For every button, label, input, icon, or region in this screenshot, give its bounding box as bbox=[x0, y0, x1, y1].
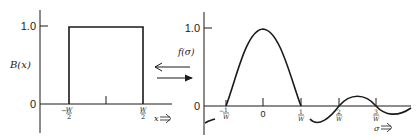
left-x-arrow-icon bbox=[160, 114, 171, 123]
sinc-negative-lobe-left bbox=[205, 119, 215, 123]
sinc-negative-lobe-1 bbox=[310, 106, 339, 122]
right-x-label: σ bbox=[374, 124, 380, 133]
tick-label-neg-1w-num: 1 bbox=[224, 106, 228, 113]
sinc-main-lobe bbox=[226, 29, 301, 106]
left-x-label: x bbox=[154, 114, 159, 123]
left-plot: 1.0 0 B(x) − W 2 W 2 x bbox=[9, 10, 172, 133]
sinc-positive-lobe bbox=[339, 96, 376, 106]
tick-label-1w-den: W bbox=[298, 115, 305, 122]
right-plot: 1.0 0 f(σ) − 1 W 0 1 W 2 W 3 W σ bbox=[177, 12, 411, 135]
tick-label-2w-den: W bbox=[336, 115, 343, 122]
tick-label-1w-num: 1 bbox=[299, 108, 303, 115]
left-y-tick-label-zero: 0 bbox=[30, 98, 36, 110]
left-y-tick-label-top: 1.0 bbox=[21, 20, 36, 32]
right-arrow-icon bbox=[157, 75, 193, 82]
tick-label-3w-den: W bbox=[373, 115, 380, 122]
sinc-negative-lobe-2 bbox=[376, 106, 411, 114]
right-y-tick-label-top: 1.0 bbox=[185, 22, 200, 34]
left-tick-left-den: 2 bbox=[67, 113, 71, 121]
right-y-tick-label-zero: 0 bbox=[194, 100, 200, 112]
tick-label-neg-1w-den: W bbox=[223, 113, 230, 120]
tick-label-0: 0 bbox=[260, 109, 265, 119]
transform-arrows bbox=[155, 63, 193, 82]
left-y-label: B(x) bbox=[9, 59, 31, 70]
tick-label-2w-num: 2 bbox=[337, 108, 341, 115]
fourier-pair-diagram: 1.0 0 B(x) − W 2 W 2 x bbox=[0, 0, 420, 140]
right-x-arrow-icon bbox=[381, 123, 392, 132]
left-arrow-icon bbox=[155, 63, 190, 71]
right-y-label: f(σ) bbox=[177, 47, 195, 57]
box-function-curve bbox=[69, 27, 143, 104]
left-tick-right-den: 2 bbox=[141, 113, 145, 121]
tick-label-3w-num: 3 bbox=[374, 108, 378, 115]
